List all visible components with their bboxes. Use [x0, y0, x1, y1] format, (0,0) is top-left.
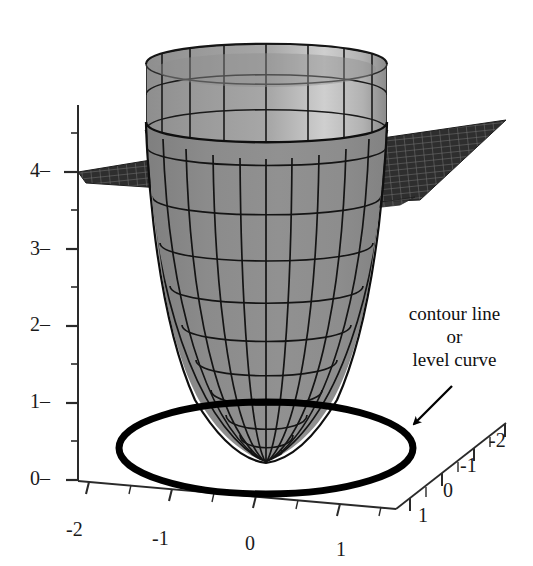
- z-tick-dash-3: –: [40, 237, 50, 259]
- z-tick-dash-2: –: [40, 313, 50, 335]
- x-label-minus2: -2: [66, 519, 83, 539]
- contour-annotation: contour line or level curve: [382, 302, 527, 372]
- x-label-1: 1: [336, 539, 346, 559]
- z-tick-dash-0: –: [40, 467, 50, 489]
- y-label-minus1: -1: [460, 455, 477, 475]
- surface-plot-figure: 4– 3– 2– 1– 0– -2 -1 0 1 1 0 -1 -2 conto…: [0, 0, 533, 566]
- x-tick-minus1: [169, 489, 172, 501]
- z-label-4-text: 4: [30, 159, 40, 181]
- y-label-1: 1: [418, 505, 428, 525]
- x-tick-0: [253, 496, 256, 508]
- z-label-1: 1–: [30, 391, 50, 411]
- x-tick-1: [337, 504, 340, 516]
- z-label-4: 4–: [30, 160, 50, 180]
- y-label-0: 0: [443, 480, 453, 500]
- z-label-0-text: 0: [30, 467, 40, 489]
- x-label-minus1: -1: [152, 528, 169, 548]
- z-label-1-text: 1: [30, 390, 40, 412]
- x-label-0: 0: [245, 533, 255, 553]
- z-tick-dash-1: –: [40, 390, 50, 412]
- paraboloid-3d-plot: [0, 0, 533, 566]
- z-tick-dash-4: –: [40, 159, 50, 181]
- annotation-line-3: level curve: [382, 348, 527, 371]
- z-label-3-text: 3: [30, 237, 40, 259]
- annotation-line-2: or: [382, 325, 527, 348]
- z-label-3: 3–: [30, 238, 50, 258]
- annotation-line-1: contour line: [382, 302, 527, 325]
- z-axis: [64, 105, 78, 481]
- x-tick-minus2: [86, 482, 89, 494]
- z-label-2-text: 2: [30, 313, 40, 335]
- annotation-arrow: [414, 386, 452, 424]
- z-label-0: 0–: [30, 468, 50, 488]
- y-label-minus2: -2: [489, 430, 506, 450]
- z-label-2: 2–: [30, 314, 50, 334]
